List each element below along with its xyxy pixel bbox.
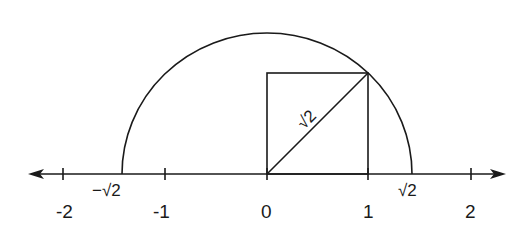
label-diagonal-sqrt2: √2 [293, 106, 320, 133]
label-neg2: -2 [56, 201, 73, 222]
label-one: 1 [363, 201, 374, 222]
square-diagonal [267, 73, 368, 174]
label-neg-sqrt2: −√2 [92, 181, 121, 200]
label-zero: 0 [261, 201, 272, 222]
label-two: 2 [465, 201, 476, 222]
label-pos-sqrt2: √2 [398, 181, 417, 200]
label-neg1: -1 [153, 201, 170, 222]
number-line-diagram: -2 -1 0 1 2 −√2 √2 √2 [0, 0, 526, 230]
